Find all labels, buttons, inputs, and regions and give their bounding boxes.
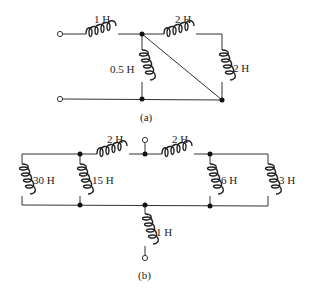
inductor-b-15h bbox=[78, 164, 94, 194]
caption-b: (b) bbox=[138, 269, 151, 282]
label-b-15h: 15 H bbox=[92, 174, 114, 186]
circuit-b bbox=[22, 143, 268, 255]
node-b2 bbox=[143, 152, 148, 157]
circuit-a bbox=[63, 34, 222, 100]
terminal-a-top bbox=[57, 31, 62, 36]
label-b-30h: 30 H bbox=[33, 174, 55, 186]
inductor-a-05h bbox=[140, 50, 156, 80]
node-a1 bbox=[140, 32, 145, 37]
node-b5 bbox=[143, 203, 148, 208]
label-a-05h: 0.5 H bbox=[110, 63, 135, 75]
label-a-2h-top: 2 H bbox=[175, 13, 191, 25]
terminal-a-bottom bbox=[57, 96, 62, 101]
label-b-1h: 1 H bbox=[156, 226, 172, 238]
label-b-2h-left: 2 H bbox=[107, 133, 123, 145]
node-b4 bbox=[78, 203, 83, 208]
node-b6 bbox=[208, 204, 213, 209]
node-b3 bbox=[208, 152, 213, 157]
caption-a: (a) bbox=[140, 111, 153, 124]
node-a3 bbox=[220, 98, 225, 103]
node-a2 bbox=[140, 97, 145, 102]
label-a-2h-right: 2 H bbox=[233, 62, 249, 74]
label-b-2h-right: 2 H bbox=[172, 133, 188, 145]
node-b1 bbox=[78, 152, 83, 157]
label-b-3h: 3 H bbox=[279, 174, 295, 186]
inductor-circuits-figure: 1 H 0.5 H 2 H 2 H (a) bbox=[0, 0, 310, 291]
label-a-1h: 1 H bbox=[94, 13, 110, 25]
label-b-6h: 6 H bbox=[221, 174, 237, 186]
terminal-b-top bbox=[142, 137, 147, 142]
terminal-b-bottom bbox=[142, 255, 147, 260]
